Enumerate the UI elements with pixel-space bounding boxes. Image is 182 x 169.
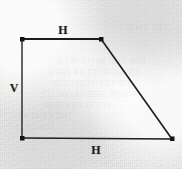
right-edge: [101, 39, 172, 139]
bottom-edge-label: H: [91, 144, 100, 156]
vertex-marker-bottom-right: [170, 137, 175, 142]
vertex-marker-bottom-left: [20, 136, 25, 141]
left-edge-label: V: [10, 82, 19, 94]
vertex-marker-top-left: [20, 37, 25, 42]
bottom-edge: [22, 138, 172, 139]
vertex-marker-top-right: [99, 37, 104, 42]
top-edge-label: H: [58, 24, 67, 36]
geometry-figure: THE SMALLFOR THE MOTION OFIN A CIRCULAR …: [0, 0, 182, 169]
